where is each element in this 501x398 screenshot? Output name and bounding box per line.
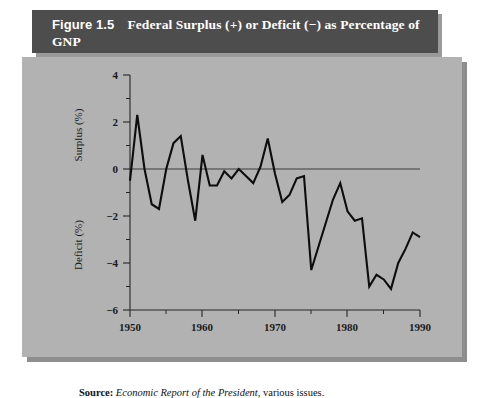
- x-tick-label-1980: 1980: [336, 321, 359, 333]
- source-note: Source: Economic Report of the President…: [79, 387, 449, 398]
- source-label: Source:: [79, 387, 113, 398]
- source-publication: Economic Report of the President: [116, 387, 258, 398]
- x-tick-label-1960: 1960: [191, 321, 214, 333]
- x-tick-label-1990: 1990: [409, 321, 432, 333]
- line-chart: 4 2 0 −2 −4 −6 Surplus (%) Deficit (%): [22, 57, 462, 357]
- y-tick-label-neg4: −4: [106, 257, 118, 269]
- y-tick-label-2: 2: [113, 116, 119, 128]
- y-tick-label-neg2: −2: [106, 210, 118, 222]
- y-axis-lower-title: Deficit (%): [72, 220, 85, 270]
- figure-number: Figure 1.5: [52, 17, 114, 34]
- chart-panel: 4 2 0 −2 −4 −6 Surplus (%) Deficit (%): [22, 57, 462, 357]
- source-suffix: , various issues.: [258, 387, 325, 398]
- x-axis-major-ticks: [130, 310, 420, 317]
- x-tick-label-1970: 1970: [264, 321, 287, 333]
- y-tick-label-neg6: −6: [106, 304, 118, 316]
- y-tick-label-4: 4: [113, 69, 119, 81]
- y-axis-minor-ticks: [126, 99, 130, 287]
- figure-title-bar: Figure 1.5Federal Surplus (+) or Deficit…: [32, 10, 438, 53]
- x-tick-label-1950: 1950: [119, 321, 142, 333]
- figure-title-text: Figure 1.5Federal Surplus (+) or Deficit…: [52, 17, 432, 50]
- deficit-surplus-series: [130, 115, 420, 289]
- y-tick-label-0: 0: [113, 163, 119, 175]
- y-axis-upper-title: Surplus (%): [72, 108, 85, 161]
- plot-area: 4 2 0 −2 −4 −6 Surplus (%) Deficit (%): [22, 57, 462, 357]
